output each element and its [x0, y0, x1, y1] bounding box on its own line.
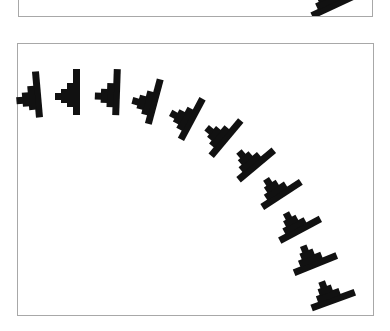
glyph-canvas	[0, 0, 390, 331]
stair-glyph-icon	[286, 235, 338, 275]
stair-glyph-icon	[94, 68, 121, 115]
stair-glyph-icon	[14, 71, 43, 119]
stair-glyph-icon	[162, 89, 206, 141]
stair-glyph-icon	[225, 134, 276, 183]
stair-glyph-icon	[55, 69, 80, 115]
top-panel-glyph-layer	[303, 0, 355, 19]
stair-glyph-icon	[251, 164, 303, 210]
main-panel-glyph-layer	[14, 68, 356, 311]
stair-glyph-icon	[128, 74, 164, 125]
stair-glyph-icon	[303, 0, 355, 19]
stair-glyph-icon	[270, 200, 322, 244]
stair-glyph-icon	[195, 107, 244, 158]
stair-glyph-icon	[304, 272, 356, 311]
